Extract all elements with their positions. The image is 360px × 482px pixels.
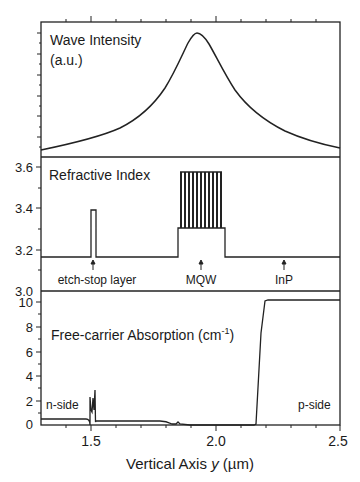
- bot-ytick-label: 4: [26, 369, 33, 384]
- mid-ytick-label: 3.6: [15, 160, 33, 175]
- annotation-arrows: [91, 260, 286, 270]
- top-panel-title: Wave Intensity: [50, 32, 141, 48]
- mqw-wells: [180, 172, 222, 228]
- xtick-label: 2.0: [206, 433, 226, 449]
- bot-ytick-label: 8: [26, 320, 33, 335]
- bot-ytick-label: 6: [26, 345, 33, 360]
- mqw-label: MQW: [186, 273, 217, 287]
- top-x-ticks: [66, 16, 316, 22]
- n-side-label: n-side: [46, 398, 79, 412]
- top-panel-subtitle: (a.u.): [50, 52, 83, 68]
- chart-figure: 3.6 3.4 3.2 3.0 10 8 6 4 2 0 1.5 2.0 2.5…: [0, 0, 360, 482]
- mid-ytick-label: 3.4: [15, 201, 33, 216]
- bot-ytick-label: 2: [26, 394, 33, 409]
- refractive-index-profile: [41, 210, 340, 257]
- bot-panel-title: Free-carrier Absorption (cm-1): [51, 326, 234, 343]
- plot-frame: [41, 22, 340, 425]
- bot-ytick-label: 10: [19, 295, 33, 310]
- xtick-label: 1.5: [81, 433, 101, 449]
- bot-y-ticks: [36, 302, 41, 413]
- etch-stop-label: etch-stop layer: [58, 273, 137, 287]
- mid-ytick-label: 3.2: [15, 243, 33, 258]
- xtick-label: 2.5: [328, 433, 348, 449]
- absorption-curve: [41, 300, 340, 425]
- inp-label: InP: [275, 273, 293, 287]
- p-side-label: p-side: [298, 398, 331, 412]
- bottom-x-ticks: [66, 425, 340, 431]
- x-axis-title: Vertical Axis y (µm): [126, 455, 254, 472]
- mid-y-ticks: [36, 167, 41, 270]
- bot-ytick-label: 0: [26, 417, 33, 432]
- wave-intensity-curve: [41, 33, 340, 150]
- mid-panel-title: Refractive Index: [49, 167, 150, 183]
